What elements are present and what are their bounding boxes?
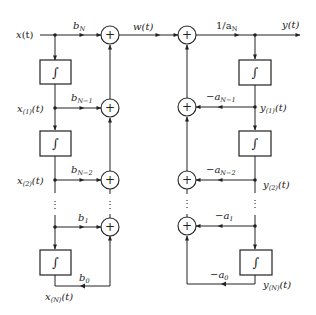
state-label-y2: y(2)(t) xyxy=(262,179,290,192)
gain-b0: b0 xyxy=(79,272,90,285)
gain-aN-2: −aN−2 xyxy=(206,164,236,177)
intermediate-label: w(t) xyxy=(133,21,153,32)
plus-symbol: + xyxy=(182,219,192,233)
ellipsis-vertical: ⋮ xyxy=(50,199,60,210)
integrator-right-3: ∫ xyxy=(240,250,272,275)
plus-symbol: + xyxy=(182,28,192,42)
gain-b1: b1 xyxy=(78,212,89,225)
state-label-yN: y(N)(t) xyxy=(262,279,291,292)
plus-symbol: + xyxy=(105,101,115,115)
gain-bN-2: bN−2 xyxy=(71,164,93,177)
plus-symbol: + xyxy=(105,220,115,234)
ellipsis-vertical: ⋮ xyxy=(182,198,192,209)
input-path xyxy=(40,33,101,37)
input-label: x(t) xyxy=(16,29,34,40)
gain-bN-1: bN−1 xyxy=(71,92,93,105)
state-label-y1: y(1)(t) xyxy=(259,102,287,115)
plus-symbol: + xyxy=(182,173,192,187)
summer-left-4: + xyxy=(101,218,119,236)
plus-symbol: + xyxy=(105,28,115,42)
summer-left-1: + xyxy=(101,26,119,44)
summer-left-2: + xyxy=(101,99,119,117)
summer-right-1: + xyxy=(178,26,196,44)
gain-a0: −a0 xyxy=(210,269,228,282)
integrator-right-2: ∫ xyxy=(239,131,271,156)
plus-symbol: + xyxy=(105,173,115,187)
integral-symbol: ∫ xyxy=(52,255,59,270)
ellipsis-vertical: ⋮ xyxy=(250,198,260,209)
plus-symbol: + xyxy=(182,100,192,114)
state-label-x2: x(2)(t) xyxy=(17,175,44,188)
summer-right-2: + xyxy=(178,98,196,116)
gain-inv-aN: 1/aN xyxy=(216,20,238,33)
integral-symbol: ∫ xyxy=(253,255,260,270)
summer-left-3: + xyxy=(101,171,119,189)
gain-aN-1: −aN−1 xyxy=(206,91,236,104)
integral-symbol: ∫ xyxy=(52,136,59,151)
output-path xyxy=(196,33,300,37)
integral-symbol: ∫ xyxy=(252,65,259,80)
output-label: y(t) xyxy=(281,19,300,30)
integral-symbol: ∫ xyxy=(52,65,59,80)
summer-right-3: + xyxy=(178,171,196,189)
integrator-right-1: ∫ xyxy=(239,60,271,85)
integrator-left-1: ∫ xyxy=(40,60,71,84)
state-label-x1: x(1)(t) xyxy=(17,103,44,116)
gain-a1: −a1 xyxy=(215,210,233,223)
summer-right-4: + xyxy=(178,217,196,235)
integrator-left-3: ∫ xyxy=(40,250,71,275)
integrator-left-2: ∫ xyxy=(40,131,71,156)
right-feedback-branches xyxy=(196,107,255,226)
block-diagram: ∫ ∫ ∫ + + + xyxy=(0,0,316,315)
state-label-xN: x(N)(t) xyxy=(45,291,73,304)
integral-symbol: ∫ xyxy=(252,136,259,151)
gain-bN: bN xyxy=(73,20,85,33)
ellipsis-vertical: ⋮ xyxy=(105,199,115,210)
